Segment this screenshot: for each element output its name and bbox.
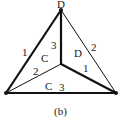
- vertex-bottom-right: [114, 91, 118, 95]
- planar-graph-diagram: D 1 2 3 2 1 3 C D C (b): [0, 0, 120, 123]
- edge-label-top-bottom-right: 2: [91, 41, 97, 53]
- edge-label-bottom-right-center: 1: [83, 62, 89, 74]
- face-label-bottom: C: [45, 80, 52, 92]
- edge-label-top-center: 3: [51, 39, 57, 51]
- edge-label-bottom-left-center: 2: [33, 65, 39, 77]
- vertex-center: [60, 63, 62, 65]
- edge-top-bottom-right: [61, 10, 116, 93]
- edge-label-bottom-left-bottom-right: 3: [59, 81, 65, 93]
- face-label-left: C: [41, 52, 48, 64]
- edge-bottom-right-center: [61, 64, 116, 93]
- vertex-bottom-left: [4, 91, 8, 95]
- edge-top-bottom-left: [6, 10, 61, 93]
- edge-label-top-bottom-left: 1: [22, 46, 28, 58]
- vertex-top-label: D: [57, 0, 65, 10]
- face-label-right: D: [74, 47, 82, 59]
- figure-caption: (b): [54, 105, 67, 118]
